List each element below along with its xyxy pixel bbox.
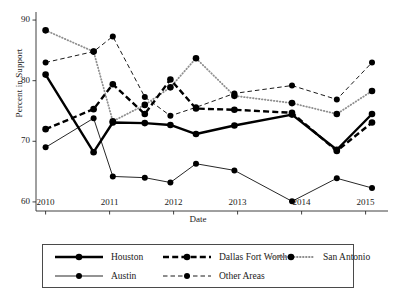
legend-item-houston[interactable]: Houston: [53, 248, 143, 266]
data-point: [231, 106, 238, 113]
data-point: [42, 71, 49, 78]
series-line: [46, 36, 372, 115]
legend-label: Other Areas: [213, 271, 265, 281]
data-point: [142, 94, 148, 100]
chart-container: Percent in Support Date 60708090 2010201…: [0, 0, 396, 296]
data-point: [193, 131, 200, 138]
data-point: [90, 149, 97, 156]
legend-key-swatch: [161, 268, 213, 284]
data-point: [193, 55, 200, 62]
data-point: [193, 161, 199, 167]
legend-label: Houston: [105, 252, 143, 262]
data-point: [110, 81, 117, 88]
data-point: [369, 185, 375, 191]
data-point: [334, 146, 341, 153]
data-point: [193, 105, 200, 112]
data-point: [142, 120, 149, 127]
legend-label: San Antonio: [317, 252, 370, 262]
data-point: [110, 119, 117, 126]
data-point: [142, 175, 148, 181]
legend-row: HoustonDallas Fort WorthSan Antonio: [43, 248, 355, 266]
data-point: [110, 173, 116, 179]
legend-key-swatch: [161, 249, 213, 265]
data-point: [289, 111, 296, 118]
data-point: [42, 126, 49, 133]
data-point: [90, 106, 97, 113]
legend-row: AustinOther Areas: [43, 267, 355, 285]
data-point: [110, 33, 116, 39]
data-point: [231, 167, 237, 173]
data-point: [289, 100, 296, 107]
data-point: [167, 113, 173, 119]
data-point: [43, 144, 49, 150]
chart-svg: [0, 0, 396, 232]
series-line: [46, 75, 372, 153]
data-point: [231, 90, 237, 96]
legend-item-san-antonio[interactable]: San Antonio: [265, 248, 370, 266]
data-point: [91, 115, 97, 121]
data-point: [167, 76, 174, 83]
legend-key-swatch: [53, 268, 105, 284]
data-point: [369, 111, 376, 118]
legend-item-austin[interactable]: Austin: [53, 267, 136, 285]
data-point: [231, 122, 238, 129]
data-point: [334, 111, 341, 118]
data-point: [334, 96, 340, 102]
data-point: [369, 59, 375, 65]
legend-item-other-areas[interactable]: Other Areas: [161, 267, 265, 285]
data-point: [142, 102, 149, 109]
data-point: [167, 122, 174, 129]
data-point: [142, 111, 149, 118]
plot-area: Percent in Support Date 60708090 2010201…: [0, 0, 396, 232]
data-point: [289, 198, 295, 204]
chart-legend: HoustonDallas Fort WorthSan AntonioAusti…: [42, 244, 354, 288]
legend-key-swatch: [53, 249, 105, 265]
data-point: [369, 88, 376, 95]
data-point: [334, 175, 340, 181]
data-point: [167, 180, 173, 186]
data-point: [369, 119, 376, 126]
legend-label: Austin: [105, 271, 136, 281]
data-point: [289, 83, 295, 89]
legend-key-swatch: [265, 249, 317, 265]
data-point: [42, 27, 49, 34]
data-point: [91, 49, 97, 55]
data-point: [167, 84, 174, 91]
data-point: [43, 59, 49, 65]
